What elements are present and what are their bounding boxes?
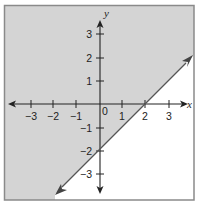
x-tick-label: −1 bbox=[70, 110, 82, 122]
x-tick-label: 1 bbox=[119, 110, 125, 122]
y-tick-label: −1 bbox=[80, 122, 92, 134]
y-tick-label: 3 bbox=[86, 28, 92, 40]
y-tick-label: 1 bbox=[86, 75, 92, 87]
origin-label: 0 bbox=[102, 105, 108, 117]
x-tick-label: 2 bbox=[142, 110, 148, 122]
x-tick-label: 3 bbox=[166, 110, 172, 122]
y-axis-label: y bbox=[103, 7, 109, 19]
x-tick-label: −3 bbox=[25, 110, 37, 122]
y-tick-label: −3 bbox=[80, 168, 92, 180]
y-tick-label: 2 bbox=[86, 52, 92, 64]
inequality-graph: −3 −2 −1 1 2 3 0 3 2 1 −1 −2 −3 x y bbox=[0, 0, 200, 206]
x-tick-label: −2 bbox=[47, 110, 59, 122]
x-axis-label: x bbox=[186, 98, 192, 110]
shaded-region bbox=[5, 6, 195, 201]
y-tick-label: −2 bbox=[80, 145, 92, 157]
